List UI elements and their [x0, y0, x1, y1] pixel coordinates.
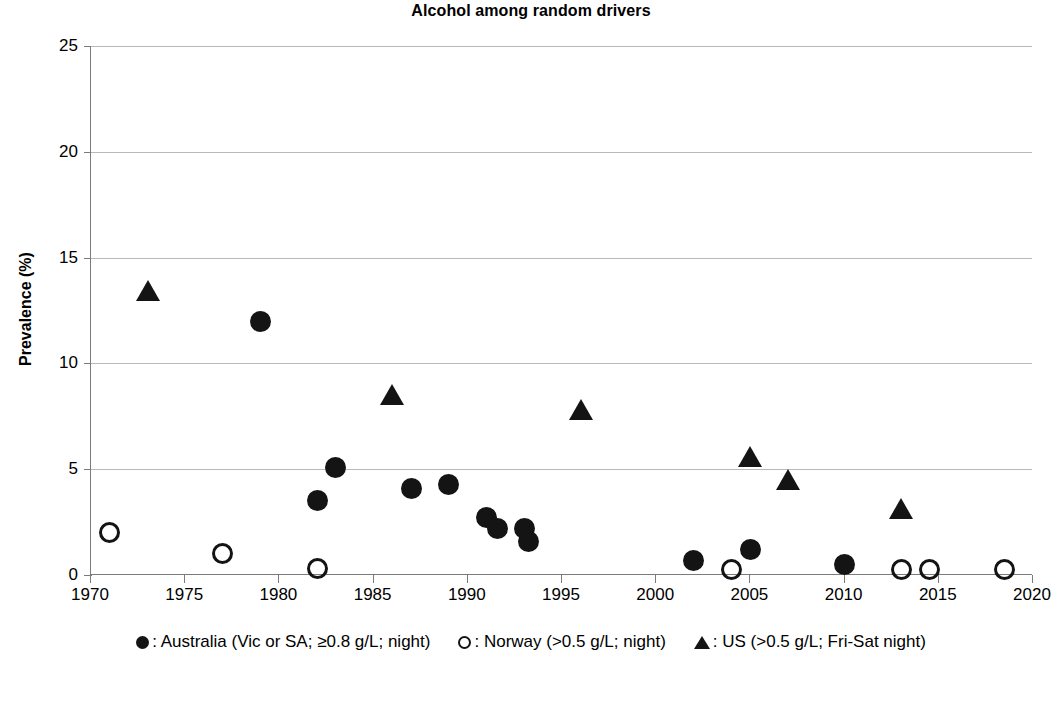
legend-marker-circle-open-icon [458, 636, 471, 649]
x-axis-tick [844, 575, 845, 583]
x-axis-tick [467, 575, 468, 583]
data-point-circle-open [721, 559, 742, 580]
chart-legend: : Australia (Vic or SA; ≥0.8 g/L; night)… [0, 632, 1062, 652]
legend-item: : US (>0.5 g/L; Fri-Sat night) [694, 632, 926, 652]
data-point-triangle [569, 399, 593, 420]
data-point-circle-filled [250, 311, 271, 332]
x-axis-tick-label: 2015 [898, 586, 978, 604]
legend-item: : Australia (Vic or SA; ≥0.8 g/L; night) [136, 632, 430, 652]
y-axis-tick-label: 20 [32, 143, 78, 160]
data-point-triangle [136, 280, 160, 301]
data-point-circle-open [994, 559, 1015, 580]
chart-container: Alcohol among random drivers Prevalence … [0, 0, 1062, 709]
plot-area [90, 46, 1032, 575]
gridline [91, 363, 1032, 364]
gridline [91, 46, 1032, 47]
data-point-triangle [738, 446, 762, 467]
data-point-circle-filled [518, 531, 539, 552]
x-axis-tick-label: 1990 [427, 586, 507, 604]
x-axis-tick-label: 2000 [615, 586, 695, 604]
data-point-triangle [776, 469, 800, 490]
legend-marker-circle-filled-icon [136, 636, 149, 649]
data-point-circle-open [99, 522, 120, 543]
x-axis-tick [561, 575, 562, 583]
x-axis-tick-label: 1970 [50, 586, 130, 604]
data-point-circle-open [919, 559, 940, 580]
x-axis-tick [90, 575, 91, 583]
data-point-circle-filled [487, 518, 508, 539]
x-axis-tick-label: 2005 [709, 586, 789, 604]
data-point-circle-filled [307, 490, 328, 511]
gridline [91, 152, 1032, 153]
x-axis-tick-label: 1980 [238, 586, 318, 604]
x-axis-tick-label: 1975 [144, 586, 224, 604]
y-axis-tick-label: 0 [32, 566, 78, 583]
legend-label: : Norway (>0.5 g/L; night) [474, 632, 665, 652]
x-axis-tick-label: 1985 [333, 586, 413, 604]
legend-label: : US (>0.5 g/L; Fri-Sat night) [713, 632, 926, 652]
data-point-circle-open [307, 558, 328, 579]
x-axis-tick [1032, 575, 1033, 583]
legend-label: : Australia (Vic or SA; ≥0.8 g/L; night) [152, 632, 430, 652]
legend-marker-triangle-icon [694, 636, 710, 649]
x-axis-tick [278, 575, 279, 583]
x-axis-tick [749, 575, 750, 583]
x-axis-tick-label: 2010 [804, 586, 884, 604]
data-point-triangle [889, 498, 913, 519]
chart-title: Alcohol among random drivers [0, 2, 1062, 20]
data-point-circle-open [212, 543, 233, 564]
y-axis-tick-label: 5 [32, 460, 78, 477]
data-point-triangle [380, 384, 404, 405]
y-axis-tick-label: 25 [32, 37, 78, 54]
data-point-circle-filled [401, 478, 422, 499]
y-axis-tick-label: 15 [32, 249, 78, 266]
gridline [91, 258, 1032, 259]
x-axis-tick-label: 2020 [992, 586, 1062, 604]
x-axis-tick [184, 575, 185, 583]
legend-item: : Norway (>0.5 g/L; night) [458, 632, 665, 652]
data-point-circle-filled [438, 474, 459, 495]
data-point-circle-filled [325, 457, 346, 478]
gridline [91, 469, 1032, 470]
y-axis-tick-label: 10 [32, 354, 78, 371]
x-axis-tick-label: 1995 [521, 586, 601, 604]
data-point-circle-filled [834, 554, 855, 575]
x-axis-tick [655, 575, 656, 583]
data-point-circle-open [891, 559, 912, 580]
x-axis-tick [373, 575, 374, 583]
data-point-circle-filled [740, 539, 761, 560]
data-point-circle-filled [683, 550, 704, 571]
x-axis-tick [938, 575, 939, 583]
